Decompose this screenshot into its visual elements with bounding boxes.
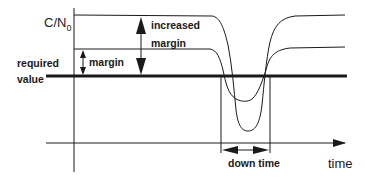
required-value-label-line1: required bbox=[17, 57, 59, 69]
down-time-arrow bbox=[222, 146, 269, 154]
arrow-up-icon bbox=[80, 50, 86, 58]
arrow-down-icon bbox=[80, 67, 86, 75]
margin-label: margin bbox=[89, 56, 124, 68]
link-margin-diagram: C/N0 required value margin increased mar… bbox=[0, 0, 365, 178]
increased-margin-label-line2: margin bbox=[151, 37, 186, 49]
x-axis-arrowhead-icon bbox=[333, 139, 346, 147]
increased-margin-curve bbox=[74, 15, 345, 131]
arrow-left-icon bbox=[222, 146, 238, 154]
increased-margin-label-line1: increased bbox=[151, 19, 200, 31]
required-value-label-line2: value bbox=[17, 73, 44, 85]
margin-arrow bbox=[80, 50, 86, 75]
arrow-up-icon bbox=[136, 17, 146, 34]
increased-margin-arrow bbox=[136, 17, 146, 75]
x-axis-label: time bbox=[328, 156, 353, 171]
y-axis-label: C/N0 bbox=[44, 15, 71, 33]
arrow-down-icon bbox=[136, 58, 146, 75]
arrow-right-icon bbox=[253, 146, 269, 154]
down-time-label: down time bbox=[228, 157, 280, 169]
